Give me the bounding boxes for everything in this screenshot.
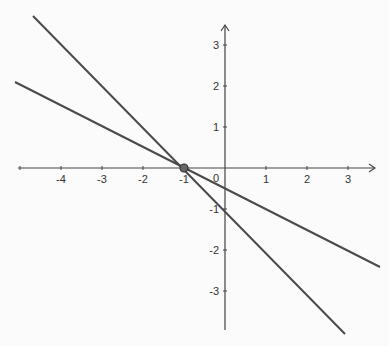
intersection-point	[180, 164, 188, 172]
x-tick-label: 2	[304, 173, 310, 185]
shallow-line	[15, 82, 380, 267]
y-tick-label: 3	[213, 39, 219, 51]
x-tick-label: 1	[263, 173, 269, 185]
y-tick-label: -3	[209, 285, 219, 297]
x-tick-label: -3	[97, 173, 107, 185]
x-tick-label: -2	[138, 173, 148, 185]
y-tick-label: -2	[209, 244, 219, 256]
y-tick-label: 2	[213, 80, 219, 92]
coordinate-plane: -4 -3 -2 -1 0 1 2 3 3 2 1 -1 -2 -3	[0, 0, 389, 346]
x-tick-label: 3	[345, 173, 351, 185]
steep-line	[33, 16, 345, 334]
x-tick-label: -4	[56, 173, 66, 185]
y-tick-label: 1	[213, 121, 219, 133]
